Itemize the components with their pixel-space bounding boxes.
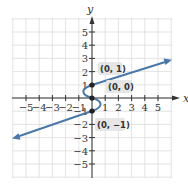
axes: x y [12, 3, 188, 178]
point-0-0 [89, 95, 94, 100]
label-0-neg1: (0, −1) [97, 120, 130, 130]
point-0-1 [89, 82, 94, 87]
y-tick-label: 5 [82, 27, 88, 38]
arrow-left-icon [12, 133, 21, 140]
x-tick-label: 2 [115, 102, 121, 113]
x-tick-label: 1 [102, 102, 108, 113]
arrow-right-icon [164, 59, 173, 66]
x-axis-arrow-icon [172, 96, 180, 101]
points [89, 82, 94, 113]
y-tick-label: −5 [73, 159, 88, 170]
y-tick-label: −3 [73, 133, 88, 144]
y-tick-label: 3 [82, 53, 88, 64]
y-axis-name: y [86, 3, 94, 16]
graph: x y −5−4−3−2−112345−5−4−3−2−112345 (0, 1… [0, 0, 188, 186]
y-tick-label: 4 [82, 40, 88, 51]
x-axis-name: x [183, 92, 188, 105]
x-tick-label: 5 [155, 102, 161, 113]
label-0-0: (0, 0) [108, 82, 134, 92]
y-tick-label: −4 [73, 146, 88, 157]
point-labels: (0, 1) (0, 0) (0, −1) [95, 62, 134, 131]
x-tick-label: 3 [128, 102, 134, 113]
y-tick-label: −2 [73, 119, 88, 130]
label-0-1: (0, 1) [100, 64, 126, 74]
point-0-neg1 [89, 108, 94, 113]
y-axis-arrow-icon [90, 16, 95, 24]
y-tick-label: 2 [82, 67, 88, 78]
x-tick-label: 4 [142, 102, 148, 113]
